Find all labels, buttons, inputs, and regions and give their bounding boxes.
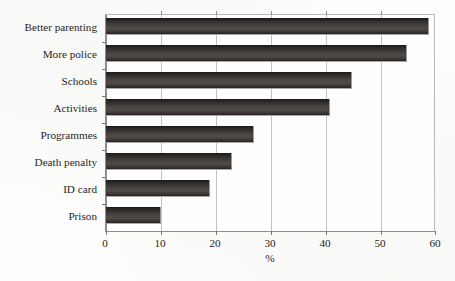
xtick-label-0: 0 [102, 236, 108, 250]
plot-area [105, 14, 435, 232]
category-label-activities: Activities [54, 102, 98, 114]
xtick-mark-20 [216, 231, 217, 235]
bar-programmes [106, 126, 254, 143]
bar-schools [106, 72, 352, 89]
xtick-label-20: 20 [209, 236, 220, 250]
bar-row-more-police [106, 45, 434, 62]
xtick-mark-40 [326, 231, 327, 235]
category-label-prison: Prison [68, 210, 97, 222]
xtick-label-10: 10 [154, 236, 165, 250]
bar-series [106, 15, 434, 231]
xtick-mark-60 [435, 231, 436, 235]
bar-row-activities [106, 99, 434, 116]
bar-row-schools [106, 72, 434, 89]
bar-row-prison [106, 207, 434, 224]
xtick-mark-0 [106, 231, 107, 235]
xtick-label-50: 50 [374, 236, 385, 250]
xtick-mark-50 [381, 231, 382, 235]
category-label-schools: Schools [62, 75, 97, 87]
bar-row-death-penalty [106, 153, 434, 170]
bar-better-parenting [106, 18, 429, 35]
category-label-more-police: More police [43, 48, 97, 60]
bar-prison [106, 207, 161, 224]
x-axis-tick-labels: 0 10 20 30 40 50 60 [105, 236, 435, 252]
category-label-death-penalty: Death penalty [35, 156, 97, 168]
category-label-better-parenting: Better parenting [25, 21, 97, 33]
xtick-mark-30 [271, 231, 272, 235]
xtick-mark-10 [161, 231, 162, 235]
bar-row-id-card [106, 180, 434, 197]
category-label-id-card: ID card [63, 183, 97, 195]
category-axis-labels: Better parenting More police Schools Act… [0, 14, 100, 232]
bar-row-better-parenting [106, 18, 434, 35]
xtick-label-40: 40 [319, 236, 330, 250]
xtick-label-60: 60 [429, 236, 440, 250]
x-axis-title: % [105, 252, 435, 264]
bar-activities [106, 99, 330, 116]
bar-death-penalty [106, 153, 232, 170]
category-label-programmes: Programmes [40, 129, 97, 141]
bar-id-card [106, 180, 210, 197]
bar-row-programmes [106, 126, 434, 143]
bar-more-police [106, 45, 407, 62]
xtick-label-30: 30 [264, 236, 275, 250]
bar-chart-screenshot: Better parenting More police Schools Act… [0, 0, 455, 281]
